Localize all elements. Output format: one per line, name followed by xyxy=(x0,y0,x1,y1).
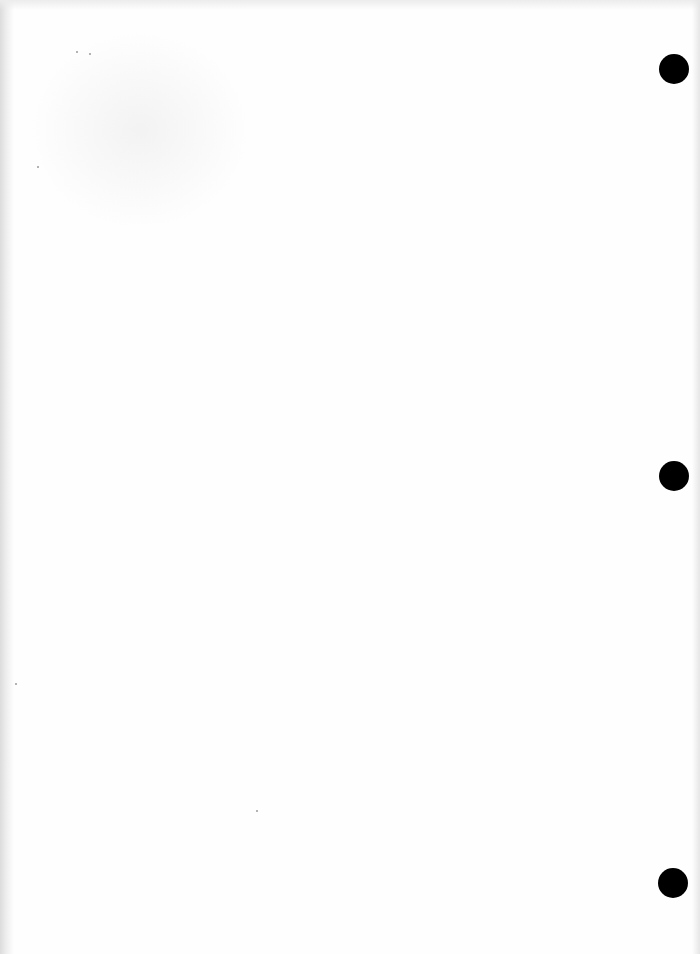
scan-edge-shadow-right xyxy=(692,0,700,954)
punch-hole-3 xyxy=(658,868,688,898)
dust-speck xyxy=(15,683,17,685)
dust-speck xyxy=(37,166,39,168)
scan-edge-shadow-left xyxy=(0,0,14,954)
scan-edge-shadow-top xyxy=(0,0,700,10)
punch-hole-1 xyxy=(659,54,689,84)
dust-speck xyxy=(256,810,258,812)
punch-hole-2 xyxy=(659,461,689,491)
scanned-page xyxy=(0,0,700,954)
dust-speck xyxy=(89,53,91,55)
dust-speck xyxy=(76,51,78,53)
paper-tint xyxy=(30,30,250,230)
